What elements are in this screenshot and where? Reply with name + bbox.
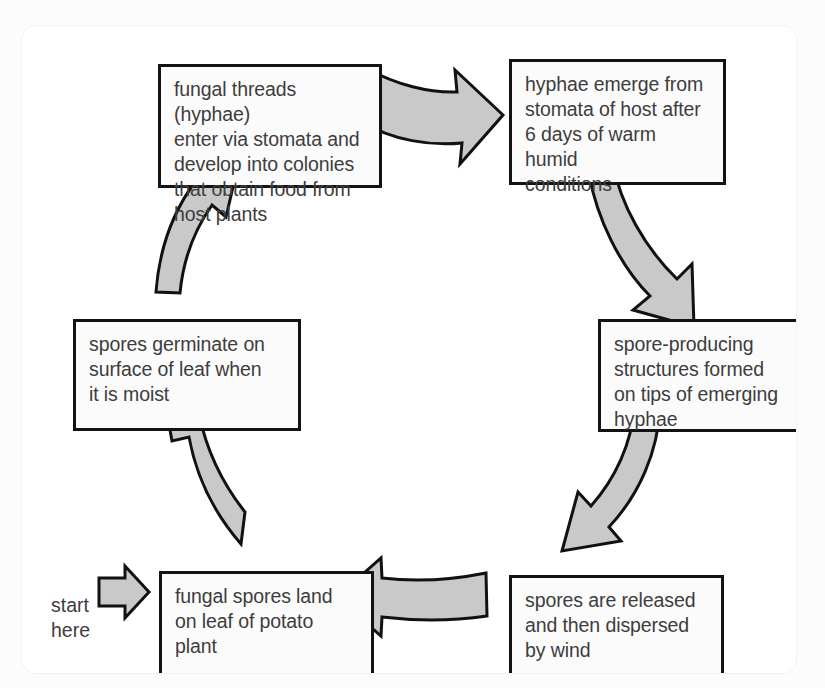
- start-here-label: start here: [51, 593, 121, 643]
- stage-box-spores-released: spores are released and then dispersed b…: [509, 575, 724, 673]
- arrow-enter-to-emerge: [361, 68, 503, 164]
- diagram-card: fungal threads (hyphae) enter via stomat…: [22, 26, 796, 673]
- stage-box-spore-structures: spore-producing structures formed on tip…: [598, 319, 796, 432]
- stage-box-hyphae-enter: fungal threads (hyphae) enter via stomat…: [158, 64, 382, 188]
- page-root: fungal threads (hyphae) enter via stomat…: [0, 0, 825, 688]
- stage-box-spores-land: fungal spores land on leaf of potato pla…: [159, 571, 374, 673]
- stage-box-spores-germinate: spores germinate on surface of leaf when…: [73, 319, 301, 431]
- stage-box-hyphae-emerge: hyphae emerge from stomata of host after…: [509, 59, 726, 185]
